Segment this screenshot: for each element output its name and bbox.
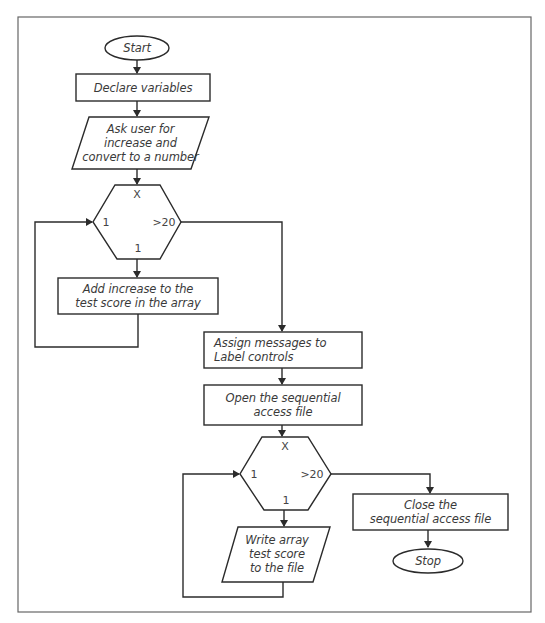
loop2-exit-line bbox=[331, 474, 430, 493]
start-label: Start bbox=[105, 41, 169, 55]
loop1-right-label: >20 bbox=[150, 217, 178, 229]
loop1-left-label: 1 bbox=[98, 217, 114, 229]
loop1-bottom-label: 1 bbox=[128, 243, 148, 255]
loop2-right-label: >20 bbox=[298, 469, 326, 481]
assign-messages-label: Assign messages to Label controls bbox=[204, 336, 362, 364]
ask-user-label: Ask user for increase and convert to a n… bbox=[72, 122, 209, 164]
close-file-label: Close the sequential access file bbox=[353, 498, 508, 526]
loop1-top-label: X bbox=[127, 189, 147, 201]
loop2-left-label: 1 bbox=[246, 469, 262, 481]
loop2-bottom-label: 1 bbox=[276, 495, 296, 507]
declare-variables-label: Declare variables bbox=[76, 81, 210, 95]
stop-label: Stop bbox=[393, 554, 463, 568]
add-increase-label: Add increase to the test score in the ar… bbox=[58, 282, 218, 310]
write-array-label: Write array test score to the file bbox=[232, 533, 322, 575]
loop2-top-label: X bbox=[275, 441, 295, 453]
open-file-label: Open the sequential access file bbox=[204, 391, 362, 419]
